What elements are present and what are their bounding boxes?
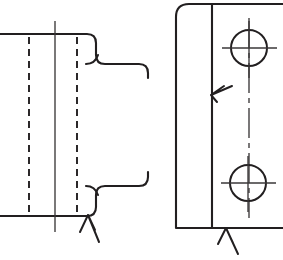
upper-hole	[222, 21, 277, 78]
surface-finish-leader-block-bottom	[218, 228, 238, 254]
surface-finish-leader-flange-face	[211, 86, 232, 102]
front-view-block-outline	[176, 4, 283, 228]
surface-finish-leader-side-bottom	[80, 215, 99, 242]
drawing-svg	[0, 0, 283, 260]
left-side-view	[0, 21, 148, 232]
side-view-top-profile	[0, 34, 148, 78]
side-view-bottom-profile	[0, 172, 148, 216]
lower-hole	[221, 156, 276, 212]
technical-drawing-canvas	[0, 0, 283, 260]
right-front-view	[176, 4, 283, 228]
